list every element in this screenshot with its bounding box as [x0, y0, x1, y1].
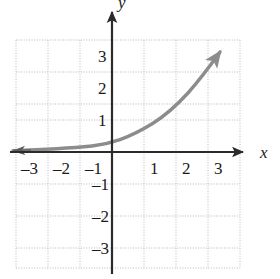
x-tick-label-3: 3: [214, 160, 223, 177]
y-tick-label-2: 2: [98, 80, 107, 97]
y-tick-label-1: 1: [98, 112, 107, 129]
graph-figure: y x –3 –2 –1 1 2 3 3 2 1 –1 –2 –3: [0, 0, 280, 279]
grid-lines: [16, 40, 240, 268]
y-tick-label-neg1: –1: [92, 176, 109, 193]
x-axis-label: x: [260, 144, 268, 161]
y-tick-label-neg3: –3: [92, 240, 109, 257]
curve-left-tail-arrow: [14, 150, 30, 151]
x-tick-label-neg2: –2: [53, 160, 70, 177]
x-tick-label-1: 1: [150, 160, 159, 177]
y-tick-label-neg2: –2: [92, 208, 109, 225]
y-tick-label-3: 3: [98, 48, 107, 65]
x-tick-label-neg3: –3: [21, 160, 38, 177]
x-tick-label-2: 2: [182, 160, 191, 177]
exponential-curve: [13, 52, 220, 151]
coordinate-plane: [0, 0, 280, 279]
y-axis-label: y: [118, 0, 126, 11]
